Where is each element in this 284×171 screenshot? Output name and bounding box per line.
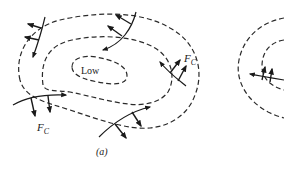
coriolis-arrow: [108, 26, 122, 36]
coriolis-arrow: [270, 69, 272, 82]
trajectory-bottom: [99, 107, 150, 137]
force-symbol: F: [37, 121, 44, 133]
coriolis-force-label: FC: [37, 121, 49, 136]
force-subscript: C: [44, 127, 49, 136]
coriolis-arrow: [25, 37, 39, 40]
trajectories-panel-a: [13, 12, 186, 138]
coriolis-arrow: [31, 98, 35, 116]
coriolis-arrow: [170, 60, 180, 73]
coriolis-arrow: [28, 24, 41, 28]
coriolis-arrow: [116, 15, 131, 24]
panel-b-partial: [238, 18, 284, 118]
force-subscript: C: [191, 58, 196, 67]
coriolis-arrow: [132, 112, 141, 126]
trajectory-top-left: [33, 17, 45, 57]
low-pressure-label: Low: [81, 65, 99, 76]
coriolis-arrow: [48, 96, 50, 112]
coriolis-arrow: [178, 66, 186, 81]
coriolis-force-label: FC: [184, 52, 196, 67]
trajectory-left: [13, 95, 66, 105]
coriolis-diagram: Low FC FC (a): [0, 0, 284, 171]
panel-b-trajectory: [250, 74, 284, 80]
panel-b-inner-isobar: [262, 40, 284, 90]
force-symbol: F: [184, 52, 191, 64]
panel-caption: (a): [96, 146, 108, 157]
panel-b-outer-isobar: [238, 18, 284, 118]
diagram-drawing: [0, 0, 284, 171]
